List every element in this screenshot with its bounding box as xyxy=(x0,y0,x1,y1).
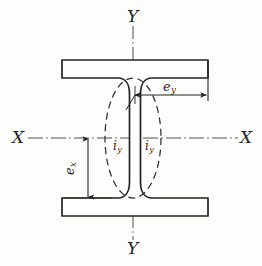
axis-label-x-right: X xyxy=(240,129,252,146)
ex-subscript: x xyxy=(68,162,78,167)
axis-label-x-left: X xyxy=(12,129,24,146)
ey-subscript: y xyxy=(171,85,176,95)
gyration-label-iy-right: iy xyxy=(145,140,154,154)
ex-symbol: e xyxy=(62,167,77,175)
ey-symbol: e xyxy=(163,79,171,94)
iy-right-subscript: y xyxy=(149,145,154,154)
ibeam-cross-section-figure: Y Y X X ey ex iy iy xyxy=(0,0,262,266)
axis-label-y-top: Y xyxy=(127,8,138,25)
dimension-label-ey: ey xyxy=(163,80,176,95)
gyration-label-iy-left: iy xyxy=(113,140,122,154)
dimension-label-ex: ex xyxy=(63,162,78,175)
figure-canvas xyxy=(0,0,262,266)
axis-label-y-bottom: Y xyxy=(127,240,138,257)
iy-left-subscript: y xyxy=(117,145,122,154)
